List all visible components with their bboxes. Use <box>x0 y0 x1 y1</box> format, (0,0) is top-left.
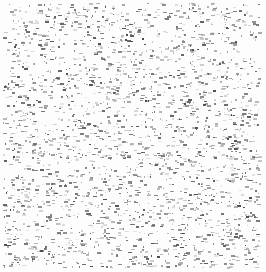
noise-canvas <box>0 0 266 272</box>
speckle-texture <box>0 0 266 272</box>
